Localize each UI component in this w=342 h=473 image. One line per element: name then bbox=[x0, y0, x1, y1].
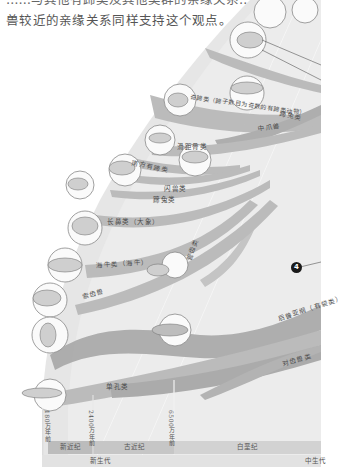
callout-marker: 4 bbox=[291, 262, 302, 273]
label-litopterna: 滑距骨类 bbox=[177, 141, 207, 151]
label-proboscidea: 长鼻类（大象） bbox=[107, 216, 160, 226]
period-neogene: 新近纪 bbox=[48, 441, 92, 453]
label-astrapotheria: 闪兽类 bbox=[164, 183, 187, 193]
tick-1.8ma: 180万年前 bbox=[43, 410, 52, 442]
era-mesozoic: 中生代 bbox=[305, 455, 335, 467]
period-paleogene: 古近纪 bbox=[94, 441, 174, 453]
animal-circle-rhino bbox=[254, 0, 286, 28]
label-hyracoidea: 蹄兔类 bbox=[153, 194, 176, 204]
label-monotremata: 单孔类 bbox=[106, 381, 129, 391]
era-cenozoic: 新生代 bbox=[60, 455, 140, 467]
period-cretaceous: 白垩纪 bbox=[174, 441, 321, 453]
